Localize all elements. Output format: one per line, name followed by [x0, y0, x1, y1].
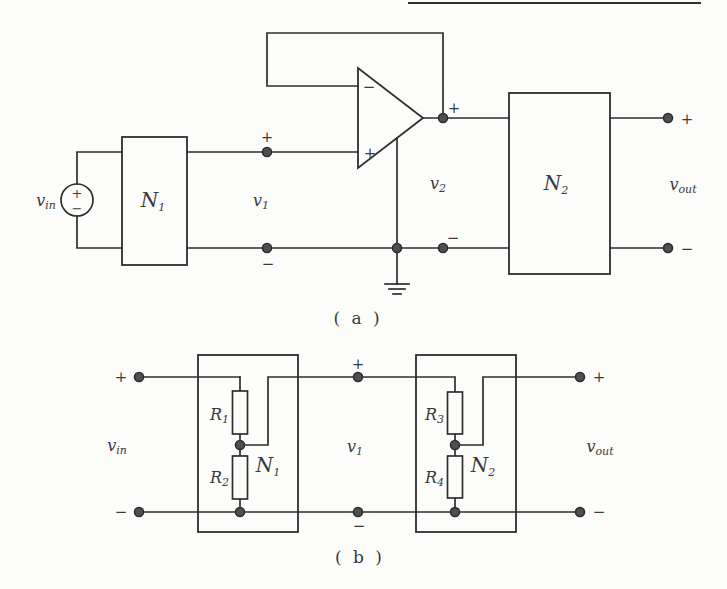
wire-n1-divider-tap: [240, 377, 455, 445]
opamp-inverting-sign: −: [363, 78, 376, 96]
resistor-r2: [233, 456, 248, 499]
wire-feedback-loop: [267, 33, 443, 118]
v2-plus-sign: +: [448, 99, 461, 117]
b-vout-minus-sign: −: [593, 503, 606, 521]
caption-b: ( b ): [335, 547, 385, 567]
r3-label: R3: [424, 405, 444, 426]
circuit-figure: vin + − N1 + v1 − − + + v2 − N2 + vout −…: [0, 0, 727, 589]
resistor-r3: [448, 392, 463, 434]
node-r2-bottom-junction: [236, 508, 245, 517]
r4-label: R4: [424, 468, 444, 489]
node-b-v1-plus: [354, 373, 363, 382]
node-ground-junction: [393, 244, 402, 253]
v1-label: v1: [253, 191, 269, 212]
node-r4-bottom-junction: [451, 508, 460, 517]
vout-label: vout: [669, 175, 697, 196]
vout-minus-sign: −: [681, 240, 694, 258]
network-n2b-box: [416, 355, 516, 532]
v2-label: v2: [430, 174, 446, 195]
wire-n2-divider-tap: [455, 377, 580, 445]
circuit-a: vin + − N1 + v1 − − + + v2 − N2 + vout −…: [36, 33, 697, 328]
v1-plus-sign: +: [261, 128, 274, 146]
node-r3-r4-junction: [451, 441, 460, 450]
caption-a: ( a ): [333, 308, 382, 328]
network-n2b-label: N2: [470, 453, 496, 479]
network-n2-label: N2: [543, 171, 569, 197]
circuit-b: + − vin R1 R2 N1 + v1 − R3 R4 N2 + vout …: [107, 355, 614, 567]
r2-label: R2: [209, 468, 229, 489]
network-n1b-label: N1: [255, 453, 281, 479]
node-v1-plus: [263, 148, 272, 157]
terminal-b-vout-minus: [576, 508, 585, 517]
b-v1-plus-sign: +: [352, 355, 365, 373]
v2-minus-sign: −: [447, 229, 460, 247]
opamp-noninverting-sign: +: [364, 144, 377, 162]
b-vout-plus-sign: +: [593, 368, 606, 386]
network-n1-label: N1: [140, 188, 166, 214]
b-vout-label: vout: [586, 437, 614, 458]
wire-source-bottom: [77, 216, 122, 248]
node-opamp-output: [439, 114, 448, 123]
b-v1-minus-sign: −: [353, 517, 366, 535]
vout-plus-sign: +: [681, 110, 694, 128]
vin-source-minus-sign: −: [72, 201, 83, 216]
resistor-r1: [233, 391, 248, 434]
b-v1-label: v1: [347, 437, 363, 458]
terminal-vout-minus: [664, 244, 673, 253]
vin-label: vin: [36, 191, 56, 212]
node-r1-r2-junction: [236, 441, 245, 450]
b-vin-plus-sign: +: [115, 368, 128, 386]
wire-source-top: [77, 152, 122, 184]
terminal-b-vout-plus: [576, 373, 585, 382]
node-v1-minus: [263, 244, 272, 253]
vin-source-plus-sign: +: [72, 186, 83, 201]
b-vin-minus-sign: −: [115, 503, 128, 521]
network-n1b-box: [198, 355, 298, 532]
v1-minus-sign: −: [262, 255, 275, 273]
terminal-b-vin-plus: [135, 373, 144, 382]
terminal-vout-plus: [664, 114, 673, 123]
b-vin-label: vin: [107, 436, 127, 457]
r1-label: R1: [209, 405, 229, 426]
node-b-v1-minus: [354, 508, 363, 517]
resistor-r4: [448, 456, 463, 498]
terminal-b-vin-minus: [135, 508, 144, 517]
scanned-figure-page: vin + − N1 + v1 − − + + v2 − N2 + vout −…: [0, 0, 727, 589]
